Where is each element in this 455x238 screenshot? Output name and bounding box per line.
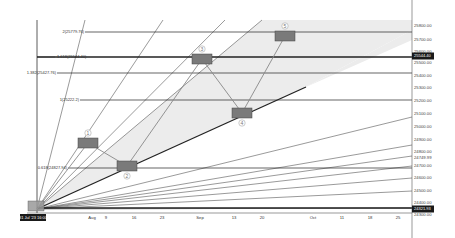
price-tick-label: 25300.00 bbox=[414, 85, 432, 90]
low-price-tag-text: 24321.93 bbox=[414, 206, 431, 211]
price-tick-label: 25500.00 bbox=[414, 60, 432, 65]
chart-root: 2(25779.76)1.618(25544.40)1.382(25427.76… bbox=[0, 0, 455, 238]
time-tick-label: Sep bbox=[196, 215, 204, 220]
price-tick-label: 24900.00 bbox=[414, 137, 432, 142]
time-tick-label: 16 bbox=[132, 215, 137, 220]
price-tick-label: 25400.00 bbox=[414, 73, 432, 78]
fib-level-label: 0.618(24827.94) bbox=[38, 165, 68, 170]
price-tick-label: 24700.00 bbox=[414, 163, 432, 168]
price-tick-label: 24600.00 bbox=[414, 175, 432, 180]
price-tick-label: 24800.00 bbox=[414, 149, 432, 154]
time-tick-label: Oct bbox=[310, 215, 317, 220]
wave-number-label: 4 bbox=[241, 120, 244, 126]
time-tick-label: 20 bbox=[260, 215, 265, 220]
time-tick-label: 23 bbox=[160, 215, 165, 220]
wave-point-marker[interactable] bbox=[275, 31, 295, 41]
time-tick-label: 13 bbox=[232, 215, 237, 220]
wave-point-marker[interactable] bbox=[232, 108, 252, 118]
fib-level-label: 1(25222.2) bbox=[60, 97, 80, 102]
price-tick-label: 24749.99 bbox=[414, 155, 432, 160]
fibonacci-chart[interactable]: 2(25779.76)1.618(25544.40)1.382(25427.76… bbox=[0, 0, 455, 238]
price-tick-label: 24400.00 bbox=[414, 200, 432, 205]
time-tick-label: 18 bbox=[368, 215, 373, 220]
wave-number-label: 2 bbox=[126, 173, 129, 179]
wave-origin-marker[interactable] bbox=[28, 201, 44, 211]
price-tick-label: 24500.00 bbox=[414, 188, 432, 193]
wave-point-marker[interactable] bbox=[78, 138, 98, 148]
price-tick-label: 25000.00 bbox=[414, 124, 432, 129]
time-tick-label: 25 bbox=[396, 215, 401, 220]
wave-number-label: 3 bbox=[201, 46, 204, 52]
price-tick-label: 25200.00 bbox=[414, 98, 432, 103]
time-tick-label: 11 bbox=[340, 215, 345, 220]
fib-level-label: 2(25779.76) bbox=[62, 29, 84, 34]
time-tick-label: 9 bbox=[105, 215, 108, 220]
fib-level-label: 1.382(25427.76) bbox=[27, 70, 57, 75]
price-tick-label: 25800.00 bbox=[414, 23, 432, 28]
current-price-tag-text: 25544.40 bbox=[414, 53, 431, 58]
fib-level-label: 1.618(25544.40) bbox=[57, 54, 87, 59]
price-tick-label: 25700.00 bbox=[414, 37, 432, 42]
wave-number-label: 5 bbox=[284, 23, 287, 29]
price-tick-label: 24300.00 bbox=[414, 212, 432, 217]
price-tick-label: 25100.00 bbox=[414, 111, 432, 116]
fan-shaded-zone bbox=[37, 20, 412, 209]
date-tag-text: 31 Jul '23 16:00 bbox=[19, 215, 48, 220]
wave-number-label: 1 bbox=[87, 130, 90, 136]
time-tick-label: Aug bbox=[88, 215, 96, 220]
wave-point-marker[interactable] bbox=[117, 161, 137, 171]
wave-point-marker[interactable] bbox=[192, 54, 212, 64]
